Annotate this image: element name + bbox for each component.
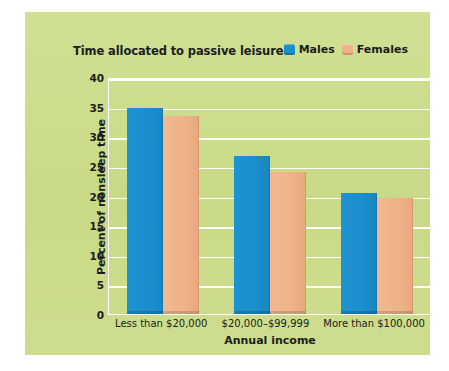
bar-males-0 [127,108,163,314]
y-axis-tick-label: 35 [70,102,104,114]
x-axis-tick-label: $20,000–$99,999 [222,318,310,329]
bar-females-0 [163,116,199,314]
bar-males-2 [341,193,377,314]
y-axis-label: Percent of nonsleep time [95,118,108,274]
legend-label-males: Males [299,43,335,56]
y-axis-tick-label: 40 [70,72,104,84]
legend-item-females: Females [342,43,408,56]
chart-title: Time allocated to passive leisure [73,44,283,58]
x-axis-ticks: Less than $20,000$20,000–$99,999More tha… [108,318,432,329]
plot-area [108,78,432,315]
bar-males-1 [234,156,270,314]
legend-label-females: Females [357,43,408,56]
chart-panel: Time allocated to passive leisure Males … [25,12,430,355]
legend-swatch-males-icon [284,44,295,55]
bar-females-2 [377,198,413,314]
x-axis-tick-label: Less than $20,000 [115,318,207,329]
bar-groups [109,79,431,314]
legend-item-males: Males [284,43,335,56]
chart-legend: Males Females [284,43,408,56]
legend-swatch-females-icon [342,44,353,55]
bar-group [127,108,199,314]
y-axis-tick-label: 5 [70,279,104,291]
y-axis-tick-label: 0 [70,309,104,321]
bar-females-1 [270,172,306,314]
bar-group [341,193,413,314]
bar-group [234,156,306,314]
chart-screenshot: Time allocated to passive leisure Males … [0,0,449,371]
x-axis-tick-label: More than $100,000 [323,318,425,329]
x-axis-label: Annual income [108,334,432,347]
